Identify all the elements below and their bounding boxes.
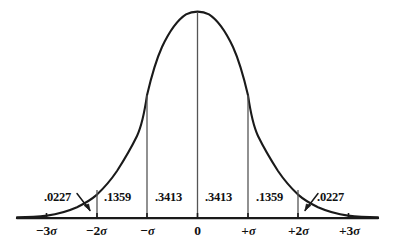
sigma-glyph: σ [249,224,256,238]
sigma-glyph: σ [148,224,155,238]
axis-label-minus-1-sigma: −σ [123,224,172,238]
axis-label-minus-2-sigma-value: −2 [86,223,100,238]
sigma-glyph: σ [353,224,360,238]
axis-label-minus-2-sigma: −2σ [72,224,121,238]
axis-label-minus-3-sigma: −3σ [22,224,71,238]
axis-label-zero: 0 [173,224,222,238]
area-label-left-tail: .0227 [44,191,71,204]
area-label-right-tail: .0227 [317,191,344,204]
axis-label-minus-3-sigma-value: −3 [36,223,50,238]
area-label-left-inner: .3413 [155,191,182,204]
axis-label-plus-1-sigma: +σ [224,224,273,238]
sigma-glyph: σ [50,224,57,238]
area-label-right-outer: .1359 [256,191,283,204]
distribution-curve-graphic [0,0,393,245]
area-label-right-inner: .3413 [205,191,232,204]
axis-label-plus-2-sigma-value: +2 [288,223,302,238]
sigma-glyph: σ [100,224,107,238]
area-label-left-outer: .1359 [104,191,131,204]
axis-label-minus-1-sigma-value: − [140,223,148,238]
axis-label-plus-1-sigma-value: + [241,223,249,238]
axis-label-plus-3-sigma-value: +3 [339,223,353,238]
normal-distribution-figure: .0227 .1359 .3413 .3413 .1359 .0227 −3σ … [0,0,393,245]
axis-label-plus-3-sigma: +3σ [325,224,374,238]
axis-label-plus-2-sigma: +2σ [274,224,323,238]
sigma-glyph: σ [302,224,309,238]
axis-label-zero-value: 0 [194,223,201,238]
